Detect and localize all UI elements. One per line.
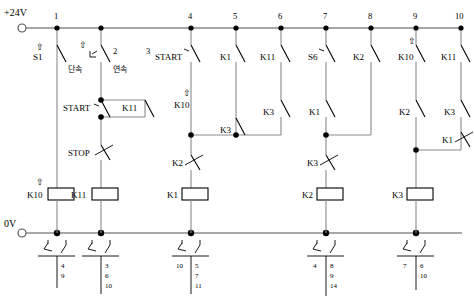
k2-r9-blade-icon <box>416 100 425 117</box>
rung-number-7: 7 <box>323 11 327 21</box>
ladder-schematic-canvas: +24V 0V 1 4 5 6 7 8 9 10 2 3 ⇧ S1 ⇧ 단속 연… <box>0 0 474 300</box>
node-rung8-top <box>368 25 373 30</box>
node-rung6-top <box>278 25 283 30</box>
node-rung7-join <box>323 132 329 138</box>
k3-coil-label: K3 <box>392 190 403 200</box>
k3-r5-blade-icon <box>236 118 245 135</box>
node-rung9-top <box>413 25 418 30</box>
selector-left-label: 단속 <box>68 64 82 74</box>
start2-blade-icon <box>191 45 200 62</box>
node-rung5-top <box>233 25 238 30</box>
k1-coil-label: K1 <box>167 190 178 200</box>
s6-label: S6 <box>308 52 318 62</box>
terminal-k2-nc-num-0: 4 <box>313 262 317 270</box>
start2-pushbutton-icon <box>184 49 189 51</box>
terminal-contact-groups <box>38 240 434 296</box>
terminal-k2-no-num-1: 9 <box>330 272 334 280</box>
bottom-rail-label: 0V <box>4 218 17 229</box>
s1-contact-blade-icon <box>57 45 66 62</box>
k2-r8-label: K2 <box>353 52 364 62</box>
no-contact-icon <box>420 240 425 253</box>
rung-number-8: 8 <box>368 11 372 21</box>
relay-coils <box>48 188 433 233</box>
rung-number-4: 4 <box>188 11 193 21</box>
top-rail-label: +24V <box>4 7 28 18</box>
no-contact-icon <box>61 240 66 253</box>
start2-label: START <box>155 52 183 62</box>
terminal-k3-no-num-0: 6 <box>420 262 424 270</box>
coil-k11-box <box>92 188 118 200</box>
terminal-k11-no-num-0: 3 <box>105 262 109 270</box>
k3-r10-label: K3 <box>444 107 455 117</box>
rung-number-1: 1 <box>54 11 58 21</box>
k2-branch-nc-bar-icon <box>185 155 203 165</box>
terminal-k11-no-num-2: 10 <box>105 282 113 290</box>
rung-number-10: 10 <box>455 11 464 21</box>
k10-contact-label: K10 <box>174 100 190 110</box>
bottom-rail-terminal-icon <box>18 229 26 237</box>
k11-seal-label: K11 <box>122 103 137 113</box>
selector-left-pole-icon <box>92 51 97 54</box>
nc-contact-icon <box>313 243 321 251</box>
k2-r9-label: K2 <box>399 107 410 117</box>
nc-contact-icon <box>88 243 96 251</box>
node-rung5-join <box>233 132 239 138</box>
stop1-label: STOP <box>68 148 90 158</box>
k1-r7-label: K1 <box>309 107 320 117</box>
k10-coil-up-arrow-icon: ⇧ <box>36 177 44 187</box>
coil-k2-box <box>317 188 343 200</box>
k3-branch-label: K3 <box>307 158 318 168</box>
stop1-nc-bar-icon <box>95 145 113 155</box>
nc-contact-icon <box>178 243 186 251</box>
node-rung10-top <box>458 25 463 30</box>
k3-branch-nc-bar-icon <box>320 155 338 165</box>
k11-r6-label: K11 <box>260 52 275 62</box>
k11-seal-blade-icon <box>145 100 154 117</box>
node-rung1-top <box>54 25 59 30</box>
node-k11-seal-bottom <box>98 114 104 120</box>
selector-switch-blade-icon <box>101 45 110 62</box>
k2-r8-blade-icon <box>371 45 380 62</box>
k3-r5-label: K3 <box>220 125 231 135</box>
start1-pushbutton-icon <box>94 104 99 106</box>
k10-coil-label: K10 <box>27 190 43 200</box>
k10-r9-label: K10 <box>398 52 414 62</box>
selector-up-arrow-icon: ⇧ <box>79 40 87 50</box>
k1-r5-blade-icon <box>236 45 245 62</box>
k2-branch-label: K2 <box>172 158 183 168</box>
k1-r7-blade-icon <box>326 100 335 117</box>
no-contact-icon <box>195 240 200 253</box>
top-rail-terminal-icon <box>18 24 26 32</box>
terminal-k3-no-num-1: 10 <box>420 272 428 280</box>
k11-r10-blade-icon <box>461 45 470 62</box>
terminal-k10-no-num-0: 4 <box>61 262 65 270</box>
s1-up-arrow-icon: ⇧ <box>36 42 44 52</box>
k11-r10-label: K11 <box>441 52 456 62</box>
rung-number-5: 5 <box>233 11 237 21</box>
selector-right-label: 연속 <box>113 65 127 74</box>
k11-r6-blade-icon <box>281 45 290 62</box>
terminal-group-k10 <box>38 240 75 288</box>
k11-coil-label: K11 <box>71 190 86 200</box>
start1-label: START <box>63 103 91 113</box>
terminal-k2-no-num-2: 14 <box>330 282 338 290</box>
node-rung4-join <box>188 132 194 138</box>
start1-blade-icon <box>101 100 110 117</box>
coil-k3-box <box>407 188 433 200</box>
node-rung2-top <box>98 25 103 30</box>
inline-number-2: 2 <box>113 46 117 56</box>
k10-contact-up-arrow-icon: ⇧ <box>183 88 191 98</box>
terminal-k1-no-num-1: 7 <box>195 272 199 280</box>
k1-r5-label: K1 <box>220 52 231 62</box>
bottom-power-rail <box>18 229 462 237</box>
node-rung9-join <box>413 147 419 153</box>
terminal-k1-no-num-0: 5 <box>195 262 199 270</box>
k1-branch-nc-bar-icon <box>455 132 473 142</box>
k3-r6-blade-icon <box>281 100 290 117</box>
k3-r10-blade-icon <box>461 100 470 117</box>
k3-r6-label: K3 <box>263 107 274 117</box>
nc-contact-icon <box>44 243 52 251</box>
rung-number-9: 9 <box>413 11 417 21</box>
k1-branch-label: K1 <box>442 135 453 145</box>
terminal-k10-no-num-1: 9 <box>61 272 65 280</box>
